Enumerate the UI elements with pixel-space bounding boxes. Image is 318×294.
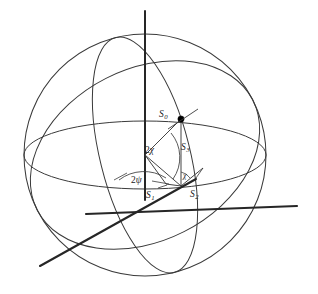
label-two-psi: 2ψ [131,176,142,186]
label-two-chi: 2χ [145,146,154,156]
label-s3-sub: 3 [186,146,190,153]
s1-axis [40,179,196,266]
label-s1: S1 [146,191,154,201]
label-s2: S2 [190,190,198,200]
equatorial-projection-line [145,155,181,186]
label-s1-sub: 1 [151,194,155,201]
poincare-sphere-drawing [0,0,318,294]
two-psi-arc [119,172,166,180]
s1-leader [158,185,167,188]
poincare-sphere-figure: S0 S3 S1 S2 2χ 2ψ χ [0,0,318,294]
label-two-chi-symbol: χ [150,145,154,155]
point-tangent-tick [168,109,198,129]
label-chi-small-symbol: χ [183,171,187,180]
label-chi-small: χ [183,172,187,180]
label-s0: S0 [159,110,167,120]
s2-axis [86,206,297,214]
label-s0-sub: 0 [164,113,168,120]
two-psi-leader-right [152,181,169,184]
two-chi-arc [171,133,180,179]
label-two-psi-symbol: ψ [136,175,142,185]
label-s3: S3 [181,143,189,153]
label-s2-sub: 2 [195,193,199,200]
s1-component-line [145,155,166,184]
